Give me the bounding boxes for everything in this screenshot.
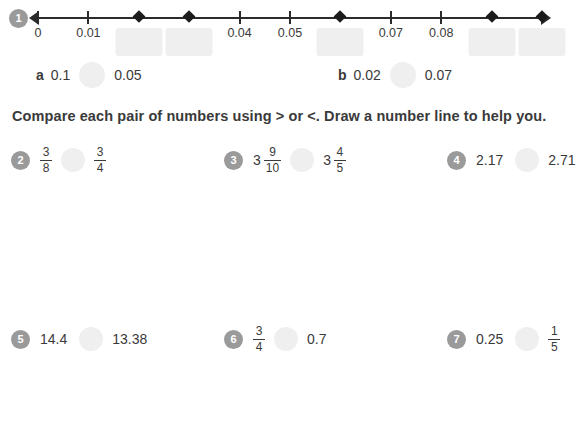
- number-line-label-7: 0.07: [379, 26, 403, 40]
- problem-3-right-value-denominator: 5: [335, 162, 346, 175]
- number-line-answer-blank-2[interactable]: [115, 28, 162, 56]
- problem-2-right-value: 34: [94, 146, 106, 175]
- problem-7-right-value-numerator: 1: [549, 325, 560, 338]
- problem-2-left-value-denominator: 8: [41, 162, 52, 175]
- sub-problem-b-answer-bubble[interactable]: [390, 62, 416, 88]
- problem-3-left-value-numerator: 9: [267, 146, 278, 159]
- number-line-diamond-marker-2: [132, 10, 145, 23]
- problem-5-right-value: 13.38: [112, 331, 150, 347]
- number-line-tick-1: [87, 11, 89, 24]
- question-number-badge-3: 3: [224, 151, 243, 170]
- question-number-badge-1: 1: [9, 9, 28, 28]
- problem-3-right-value-whole: 3: [323, 152, 331, 168]
- number-line-label-4: 0.04: [227, 26, 251, 40]
- number-line-label-5: 0.05: [278, 26, 302, 40]
- problem-3-right-value-numerator: 4: [335, 146, 346, 159]
- number-line-label-1: 0.01: [76, 26, 100, 40]
- problem-6-left-value: 34: [253, 325, 265, 354]
- problem-7-answer-bubble[interactable]: [515, 327, 539, 351]
- problem-6-left-value-denominator: 4: [254, 341, 265, 354]
- question-number-badge-5: 5: [11, 330, 30, 349]
- problem-5-answer-bubble[interactable]: [79, 327, 103, 351]
- problem-7-right-value-denominator: 5: [549, 341, 560, 354]
- problem-6-answer-bubble[interactable]: [274, 327, 298, 351]
- problem-4-right-value: 2.71: [548, 152, 578, 168]
- problem-3-left-value: 3910: [253, 146, 281, 175]
- number-line-tick-4: [239, 11, 241, 24]
- problem-2-left-value: 38: [40, 146, 52, 175]
- problem-7-right-value-fraction: 15: [548, 325, 560, 354]
- sub-problems-row: a 0.1 0.05 b 0.02 0.07: [0, 62, 580, 90]
- problem-4-answer-bubble[interactable]: [515, 148, 539, 172]
- problem-2: 23834: [11, 146, 106, 175]
- sub-problem-a: a 0.1 0.05: [36, 62, 142, 88]
- problem-7-right-value: 15: [548, 325, 560, 354]
- sub-problem-b-left-value: 0.02: [354, 67, 381, 83]
- sub-problem-b-letter: b: [338, 67, 347, 83]
- question-number-badge-7: 7: [447, 330, 466, 349]
- number-line-answer-blank-6[interactable]: [317, 28, 364, 56]
- question-number-badge-4: 4: [447, 151, 466, 170]
- sub-problem-b: b 0.02 0.07: [338, 62, 452, 88]
- sub-problem-a-letter: a: [36, 67, 44, 83]
- problem-6-left-value-fraction: 34: [253, 325, 265, 354]
- problem-6: 6340.7: [224, 325, 329, 354]
- number-line-tick-5: [289, 11, 291, 24]
- problem-2-answer-bubble[interactable]: [61, 148, 85, 172]
- sub-problem-a-right-value: 0.05: [114, 67, 141, 83]
- number-line-label-0: 0: [35, 26, 42, 40]
- problem-5: 514.413.38: [11, 327, 150, 351]
- problem-2-right-value-numerator: 3: [95, 146, 106, 159]
- problem-4-left-value: 2.17: [476, 152, 506, 168]
- problem-7: 70.2515: [447, 325, 560, 354]
- question-number-badge-6: 6: [224, 330, 243, 349]
- problem-3-right-value-fraction: 45: [334, 146, 346, 175]
- sub-problem-b-right-value: 0.07: [425, 67, 452, 83]
- problem-7-left-value: 0.25: [476, 331, 506, 347]
- number-line-tick-7: [390, 11, 392, 24]
- problem-5-left-value: 14.4: [40, 331, 70, 347]
- problem-2-left-value-fraction: 38: [40, 146, 52, 175]
- problem-5-left-value-whole: 14.4: [40, 331, 67, 347]
- problem-2-right-value-denominator: 4: [95, 162, 106, 175]
- problem-3-left-value-whole: 3: [253, 152, 261, 168]
- problem-3-answer-bubble[interactable]: [290, 148, 314, 172]
- number-line-diamond-marker-9: [485, 10, 498, 23]
- sub-problem-a-left-value: 0.1: [51, 67, 70, 83]
- problem-3: 33910345: [224, 146, 346, 175]
- number-line-tick-8: [440, 11, 442, 24]
- problem-3-left-value-fraction: 910: [264, 146, 281, 175]
- number-line-answer-blank-3[interactable]: [166, 28, 213, 56]
- problem-5-right-value-whole: 13.38: [112, 331, 147, 347]
- problem-6-right-value: 0.7: [307, 331, 329, 347]
- problem-2-right-value-fraction: 34: [94, 146, 106, 175]
- number-line-exercise: 1 00.010.040.050.070.08: [0, 4, 580, 56]
- problem-6-left-value-numerator: 3: [254, 325, 265, 338]
- number-line-answer-blank-10[interactable]: [519, 28, 566, 56]
- instruction-text: Compare each pair of numbers using > or …: [12, 108, 546, 124]
- problem-3-left-value-denominator: 10: [264, 162, 281, 175]
- problem-4: 42.172.71: [447, 148, 579, 172]
- number-line-tick-0: [37, 11, 39, 24]
- question-number-badge-2: 2: [11, 151, 30, 170]
- number-line-diamond-marker-3: [183, 10, 196, 23]
- problem-2-left-value-numerator: 3: [41, 146, 52, 159]
- problem-6-right-value-whole: 0.7: [307, 331, 326, 347]
- problem-3-right-value: 345: [323, 146, 346, 175]
- number-line-label-8: 0.08: [429, 26, 453, 40]
- problem-4-left-value-whole: 2.17: [476, 152, 503, 168]
- number-line-diamond-marker-6: [334, 10, 347, 23]
- number-line: 00.010.040.050.070.08: [38, 4, 542, 56]
- problem-7-left-value-whole: 0.25: [476, 331, 503, 347]
- sub-problem-a-answer-bubble[interactable]: [79, 62, 105, 88]
- number-line-answer-blank-9[interactable]: [468, 28, 515, 56]
- problem-4-right-value-whole: 2.71: [548, 152, 575, 168]
